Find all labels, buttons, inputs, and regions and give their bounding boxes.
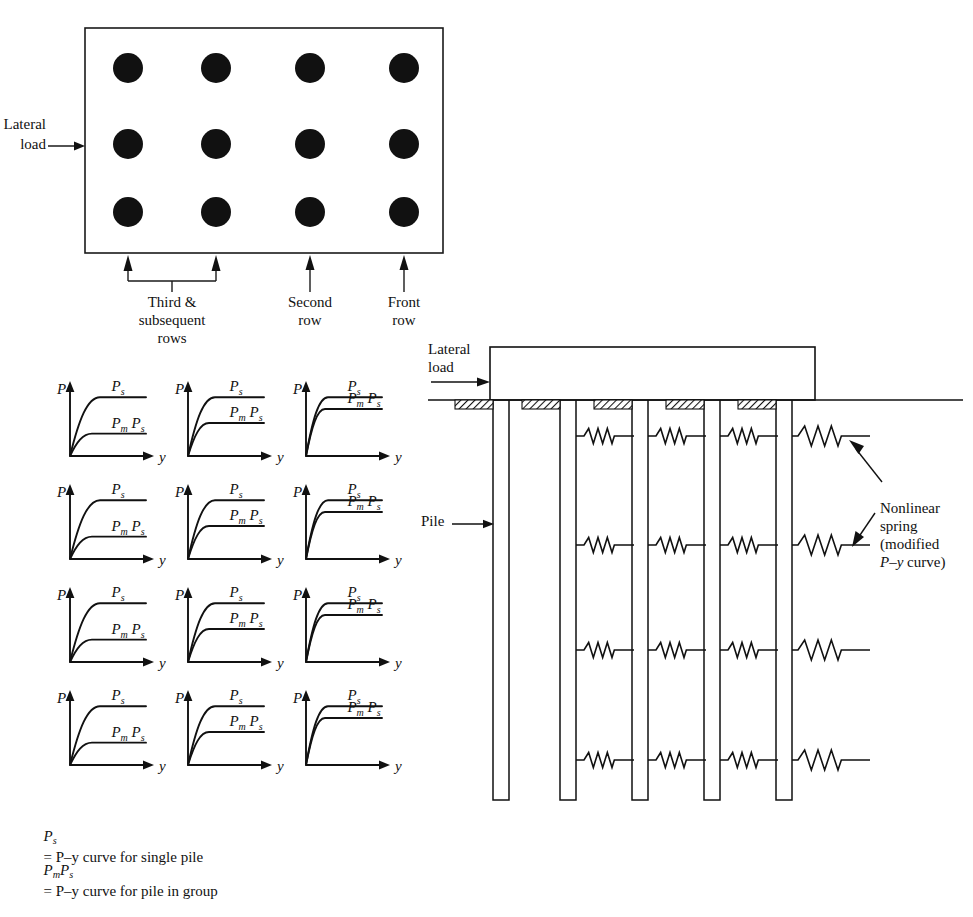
spring-annotation-line2: spring (880, 518, 918, 534)
soil-hatch-block (455, 400, 493, 409)
spring-leader-arrow-upper (849, 440, 882, 482)
nonlinear-spring (792, 750, 870, 770)
plan-row-label-third-line1: Third & (102, 294, 242, 310)
pile-element (522, 400, 576, 800)
nonlinear-spring (648, 643, 706, 658)
py-curve-axis-label-y: y (157, 552, 166, 568)
py-curve-label-ps: Ps (228, 481, 242, 500)
py-curve-label-ps: Ps (110, 378, 124, 397)
py-curve-axis-label-y: y (393, 758, 402, 774)
py-curve-cell: PyPsPm Ps (174, 378, 284, 465)
py-curve-label-pmps: Pm Ps (346, 596, 380, 615)
py-curve-axis-label-P: P (56, 690, 66, 706)
plan-arrow-front-row (400, 255, 409, 292)
py-curve-axis-label-y: y (275, 655, 284, 671)
py-curve-cell: PyPsPm Ps (174, 584, 284, 671)
pile-shaft (560, 400, 576, 800)
py-curve-axis-label-P: P (292, 690, 302, 706)
py-curve-single-pile (306, 397, 382, 456)
spring-annotation-line4: P–y curve) (880, 554, 945, 570)
py-curve-axes (66, 484, 154, 563)
py-curve-axis-label-P: P (292, 381, 302, 397)
py-curve-group-pile (306, 615, 382, 662)
py-curve-single-pile (306, 706, 382, 765)
py-curve-group-pile (306, 409, 382, 456)
plan-pile-dots (113, 53, 419, 227)
py-curve-label-pmps: Pm Ps (228, 507, 262, 526)
py-curve-label-ps: Ps (110, 584, 124, 603)
soil-hatch-block (594, 400, 632, 409)
py-curve-axis-label-P: P (174, 484, 184, 500)
py-curve-group-pile (188, 526, 264, 559)
py-curve-single-pile (306, 603, 382, 662)
py-curve-cell: PyPsPm Ps (56, 687, 166, 774)
elev-lateral-load-label-line1: Lateral (428, 341, 470, 357)
nonlinear-spring (720, 753, 778, 768)
soil-hatch-block (666, 400, 704, 409)
plan-bracket-third-rows (124, 255, 221, 292)
plan-row-label-front-line1: Front (354, 294, 454, 310)
elev-lateral-load-label-line2: load (428, 359, 454, 375)
py-curve-group-pile (306, 512, 382, 559)
pile-shaft (493, 400, 509, 800)
py-curve-axis-label-y: y (393, 449, 402, 465)
pile-shaft (704, 400, 720, 800)
nonlinear-spring (576, 538, 634, 553)
py-curve-cell: PyPsPm Ps (56, 378, 166, 465)
py-curve-label-ps: Ps (228, 687, 242, 706)
legend-symbol-ps: Ps (44, 828, 57, 844)
legend-entry-2: PmPs = P–y curve for pile in group (36, 846, 218, 899)
py-curve-cell: PyPsPm Ps (292, 481, 402, 568)
py-curve-single-pile (306, 500, 382, 559)
py-curve-label-pmps: Pm Ps (228, 610, 262, 629)
py-curve-axis-label-y: y (275, 552, 284, 568)
nonlinear-spring (648, 429, 706, 444)
py-curve-axis-label-y: y (157, 758, 166, 774)
py-curve-axes (66, 587, 154, 666)
py-curve-axis-label-y: y (275, 449, 284, 465)
pile-element (738, 400, 792, 800)
py-curve-group-pile (70, 743, 146, 765)
nonlinear-spring (576, 643, 634, 658)
plan-lateral-load-arrow (48, 142, 85, 151)
py-curve-axis-label-y: y (393, 655, 402, 671)
py-curve-axis-label-P: P (174, 587, 184, 603)
py-curve-label-pmps: Pm Ps (110, 724, 144, 743)
py-curve-cell: PyPsPm Ps (174, 481, 284, 568)
py-curve-axis-label-P: P (56, 484, 66, 500)
py-curve-group-pile (188, 629, 264, 662)
plan-row-label-third-line3: rows (102, 330, 242, 346)
py-curve-group-pile (188, 423, 264, 456)
nonlinear-spring (648, 538, 706, 553)
py-curve-group-pile (306, 718, 382, 765)
py-curve-matrix: PyPsPm PsPyPsPm PsPyPsPm PsPyPsPm PsPyPs… (52, 372, 422, 802)
py-curve-axis-label-P: P (56, 381, 66, 397)
elev-lateral-load-arrow (431, 378, 490, 387)
py-curve-cell: PyPsPm Ps (292, 687, 402, 774)
pile-element (455, 400, 509, 800)
nonlinear-spring (792, 426, 870, 446)
pile-element (666, 400, 720, 800)
py-curve-group-pile (70, 537, 146, 559)
pile-shaft (776, 400, 792, 800)
py-curve-axes (66, 381, 154, 460)
py-curve-label-pmps: Pm Ps (346, 493, 380, 512)
py-curve-label-pmps: Pm Ps (110, 518, 144, 537)
plan-row-label-front-line2: row (354, 312, 454, 328)
py-curve-label-pmps: Pm Ps (110, 621, 144, 640)
plan-row-label-third-line2: subsequent (102, 312, 242, 328)
nonlinear-spring (792, 640, 870, 660)
elev-pile-label: Pile (421, 513, 444, 529)
spring-leader-arrow-lower (852, 513, 875, 547)
nonlinear-spring (720, 643, 778, 658)
plan-lateral-load-label-line2: load (0, 136, 46, 152)
plan-lateral-load-label-line1: Lateral (0, 116, 46, 132)
nonlinear-spring (720, 538, 778, 553)
py-curve-label-ps: Ps (228, 378, 242, 397)
plan-arrow-second-row (306, 255, 315, 292)
py-curve-label-pmps: Pm Ps (346, 699, 380, 718)
py-curve-label-pmps: Pm Ps (110, 415, 144, 434)
py-curve-axis-label-P: P (56, 587, 66, 603)
py-curve-label-ps: Ps (110, 687, 124, 706)
py-curve-cell: PyPsPm Ps (292, 584, 402, 671)
